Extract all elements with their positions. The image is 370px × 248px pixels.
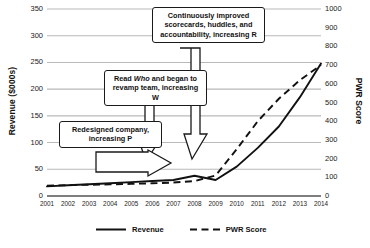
legend-item: PWR Score (190, 225, 267, 234)
legend-label: PWR Score (226, 225, 267, 234)
chart-figure: Revenue ($000s) PWR Score 05010015020025… (0, 0, 370, 248)
callout-increasing-r: Continuously improved scorecards, huddle… (152, 7, 265, 43)
callout-w-text-before: Read (114, 74, 134, 83)
legend-swatch (190, 226, 220, 233)
chart-legend: RevenuePWR Score (96, 222, 296, 236)
y-tick-label: 0 (17, 192, 43, 200)
y-tick-label: 300 (17, 32, 43, 40)
y-tick-label: 900 (325, 24, 351, 32)
y-tick-label: 200 (17, 85, 43, 93)
y-tick-label: 200 (325, 155, 351, 163)
legend-label: Revenue (132, 225, 164, 234)
y-tick-label: 600 (325, 80, 351, 88)
y-tick-label: 100 (325, 173, 351, 181)
y-tick-label: 800 (325, 42, 351, 50)
legend-item: Revenue (96, 225, 164, 234)
y-axis-left-title: Revenue ($000s) (7, 63, 17, 139)
y-tick-label: 250 (17, 58, 43, 66)
y-axis-right-title: PWR Score (354, 63, 364, 139)
y-tick-label: 400 (325, 117, 351, 125)
y-tick-label: 300 (325, 136, 351, 144)
callout-increasing-p: Redesigned company, increasing P (59, 121, 162, 148)
y-tick-label: 100 (17, 139, 43, 147)
callout-w-text-italic: Who (134, 74, 150, 83)
x-tick-label: 2014 (309, 200, 333, 208)
y-tick-label: 0 (325, 192, 351, 200)
y-tick-label: 350 (17, 5, 43, 13)
callout-increasing-w: Read Who and began to revamp team, incre… (104, 70, 207, 106)
callout-pointer-p (96, 150, 172, 180)
y-tick-label: 50 (17, 165, 43, 173)
legend-swatch (96, 226, 126, 233)
y-tick-label: 700 (325, 61, 351, 69)
y-tick-label: 1000 (325, 5, 351, 13)
y-tick-label: 500 (325, 99, 351, 107)
y-tick-label: 150 (17, 112, 43, 120)
